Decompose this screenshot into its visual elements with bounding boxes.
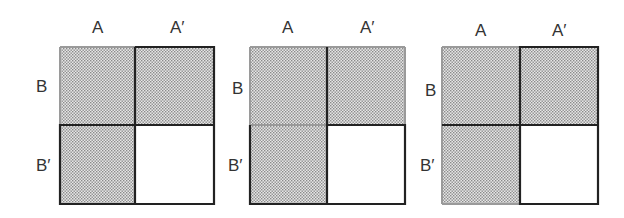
row-label-b-prime: B′ [420,157,435,174]
venn-table-1 [60,47,214,204]
cell-a-b [250,47,327,125]
cell-a-b-prime [60,125,135,204]
row-label-b: B [232,80,243,97]
cell-a-prime-b-prime [327,125,405,204]
col-label-a-prime: A′ [552,22,567,39]
cell-a-b-prime [442,125,520,204]
col-label-a: A [282,19,293,36]
row-label-b: B [425,82,436,99]
col-label-a-prime: A′ [170,19,185,36]
row-label-b-prime: B′ [36,157,51,174]
row-label-b-prime: B′ [228,157,243,174]
cell-a-b-prime [250,125,327,204]
col-label-a: A [475,22,486,39]
venn-table-2 [250,47,405,204]
col-label-a: A [92,19,103,36]
row-label-b: B [36,78,47,95]
cell-a-b [442,47,520,125]
cell-a-prime-b-prime [135,125,214,204]
col-label-a-prime: A′ [360,19,375,36]
venn-table-3 [442,47,598,204]
cell-a-prime-b [135,47,214,125]
cell-a-prime-b [520,47,598,125]
cell-a-prime-b-prime [520,125,598,204]
cell-a-b [60,47,135,125]
cell-a-prime-b [327,47,405,125]
